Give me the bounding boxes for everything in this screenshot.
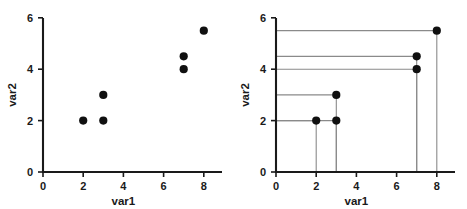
- x-tick-label: 4: [353, 180, 360, 192]
- x-tick-label: 0: [40, 180, 46, 192]
- y-tick-label: 4: [260, 63, 267, 75]
- data-point: [413, 65, 421, 73]
- y-tick-label: 4: [27, 63, 34, 75]
- data-point: [99, 117, 107, 125]
- x-tick-label: 0: [273, 180, 279, 192]
- data-point: [332, 117, 340, 125]
- x-tick-label: 2: [80, 180, 86, 192]
- y-tick-label: 0: [260, 166, 266, 178]
- x-tick-label: 6: [161, 180, 167, 192]
- y-axis-title: var2: [239, 83, 251, 107]
- x-tick-label: 8: [434, 180, 440, 192]
- data-point: [180, 52, 188, 60]
- data-point: [312, 117, 320, 125]
- y-tick-label: 6: [260, 12, 266, 24]
- data-point: [200, 27, 208, 35]
- data-point: [79, 117, 87, 125]
- left-scatter-panel: 024680246var1var2: [0, 0, 233, 209]
- y-tick-label: 2: [27, 115, 33, 127]
- x-tick-label: 6: [394, 180, 400, 192]
- left-panel-canvas: 024680246var1var2: [0, 0, 233, 209]
- x-tick-label: 2: [313, 180, 319, 192]
- y-tick-label: 6: [27, 12, 33, 24]
- x-tick-label: 4: [120, 180, 127, 192]
- y-tick-label: 0: [27, 166, 33, 178]
- x-axis-title: var1: [345, 195, 369, 207]
- right-panel-canvas: 024680246var1var2: [233, 0, 466, 209]
- data-point: [99, 91, 107, 99]
- x-tick-label: 8: [201, 180, 207, 192]
- data-point: [413, 52, 421, 60]
- right-scatter-panel: 024680246var1var2: [233, 0, 466, 209]
- data-point: [433, 27, 441, 35]
- data-point: [180, 65, 188, 73]
- y-tick-label: 2: [260, 115, 266, 127]
- x-axis-title: var1: [112, 195, 136, 207]
- y-axis-title: var2: [6, 83, 18, 107]
- data-point: [332, 91, 340, 99]
- scatter-plot-figure: 024680246var1var2 024680246var1var2: [0, 0, 467, 209]
